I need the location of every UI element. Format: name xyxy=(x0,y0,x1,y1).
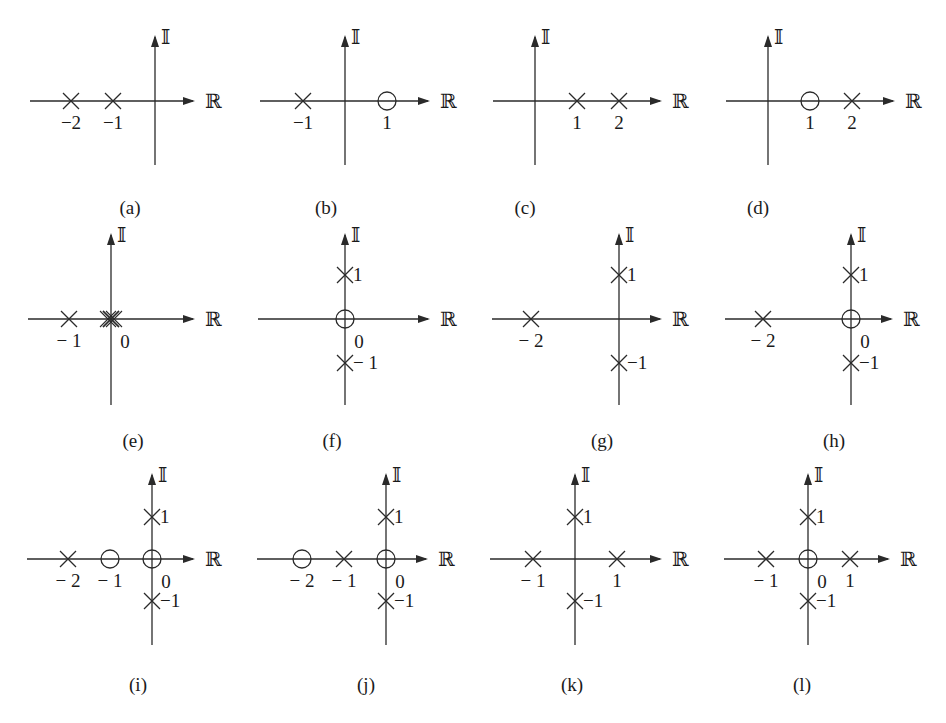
imag-axis-label: 𝕀 xyxy=(161,27,170,47)
real-axis-label: ℝ xyxy=(905,91,922,111)
real-axis-arrow-icon xyxy=(416,555,428,563)
tick-label: 1 xyxy=(572,113,582,132)
real-axis-label: ℝ xyxy=(672,309,689,329)
tick-label: − 2 xyxy=(290,571,315,590)
panel-caption: (d) xyxy=(747,198,769,217)
real-axis-arrow-icon xyxy=(650,97,662,105)
imag-axis-label: 𝕀 xyxy=(117,225,126,245)
panel-caption: (f) xyxy=(323,431,342,450)
tick-label: −1 xyxy=(103,113,123,132)
tick-label: 2 xyxy=(614,113,624,132)
pole-zero-figure: ℝ𝕀−2−1(a)ℝ𝕀−11(b)ℝ𝕀12(c)ℝ𝕀12(d)ℝ𝕀− 10(e)… xyxy=(0,0,946,723)
tick-label: 0 xyxy=(161,572,171,591)
imag-axis-arrow-icon xyxy=(151,35,159,47)
tick-label: − 2 xyxy=(751,331,776,350)
tick-label: 1 xyxy=(160,507,170,526)
real-axis-arrow-icon xyxy=(881,315,893,323)
real-axis-arrow-icon xyxy=(183,555,195,563)
imag-axis-arrow-icon xyxy=(571,473,579,485)
imag-axis-label: 𝕀 xyxy=(351,225,360,245)
tick-label: 1 xyxy=(816,507,826,526)
tick-label: −1 xyxy=(816,591,836,610)
tick-label: 1 xyxy=(382,113,392,132)
imag-axis-label: 𝕀 xyxy=(392,465,401,485)
panel-caption: (h) xyxy=(823,431,845,450)
tick-label: 1 xyxy=(859,265,869,284)
tick-label: 1 xyxy=(583,507,593,526)
imag-axis-label: 𝕀 xyxy=(774,27,783,47)
real-axis-arrow-icon xyxy=(883,97,895,105)
imag-axis-label: 𝕀 xyxy=(541,27,550,47)
tick-label: 1 xyxy=(612,571,622,590)
tick-label: −1 xyxy=(859,353,879,372)
imag-axis-label: 𝕀 xyxy=(351,27,360,47)
real-axis-label: ℝ xyxy=(438,549,455,569)
tick-label: − 1 xyxy=(353,353,378,372)
tick-label: −1 xyxy=(394,591,414,610)
tick-label: − 1 xyxy=(332,571,357,590)
imag-axis-arrow-icon xyxy=(804,473,812,485)
imag-axis-label: 𝕀 xyxy=(625,225,634,245)
real-axis-label: ℝ xyxy=(440,91,457,111)
panel-caption: (k) xyxy=(561,675,583,694)
tick-label: 0 xyxy=(860,332,870,351)
tick-label: − 1 xyxy=(57,331,82,350)
tick-label: − 2 xyxy=(519,331,544,350)
imag-axis-arrow-icon xyxy=(382,473,390,485)
real-axis-arrow-icon xyxy=(418,97,430,105)
imag-axis-label: 𝕀 xyxy=(857,225,866,245)
imag-axis-arrow-icon xyxy=(148,473,156,485)
tick-label: 2 xyxy=(847,113,857,132)
panel-caption: (c) xyxy=(514,198,535,217)
real-axis-arrow-icon xyxy=(418,315,430,323)
diagram-svg xyxy=(0,0,946,723)
imag-axis-arrow-icon xyxy=(341,35,349,47)
real-axis-label: ℝ xyxy=(900,549,917,569)
panel-caption: (l) xyxy=(793,675,811,694)
tick-label: 0 xyxy=(120,332,130,351)
real-axis-label: ℝ xyxy=(440,309,457,329)
panel-caption: (i) xyxy=(129,675,147,694)
tick-label: 1 xyxy=(845,571,855,590)
real-axis-label: ℝ xyxy=(672,91,689,111)
tick-label: −1 xyxy=(160,591,180,610)
imag-axis-arrow-icon xyxy=(531,35,539,47)
real-axis-arrow-icon xyxy=(183,315,195,323)
real-axis-label: ℝ xyxy=(205,549,222,569)
real-axis-label: ℝ xyxy=(205,91,222,111)
tick-label: −1 xyxy=(583,591,603,610)
real-axis-arrow-icon xyxy=(878,555,890,563)
real-axis-arrow-icon xyxy=(183,97,195,105)
panel-caption: (a) xyxy=(119,198,140,217)
tick-label: − 1 xyxy=(98,571,123,590)
tick-label: − 1 xyxy=(521,571,546,590)
tick-label: − 2 xyxy=(56,571,81,590)
panel-caption: (j) xyxy=(357,675,375,694)
tick-label: −1 xyxy=(293,113,313,132)
tick-label: 1 xyxy=(353,265,363,284)
imag-axis-arrow-icon xyxy=(107,233,115,245)
tick-label: 1 xyxy=(627,265,637,284)
real-axis-arrow-icon xyxy=(650,315,662,323)
real-axis-arrow-icon xyxy=(650,555,662,563)
tick-label: 1 xyxy=(394,507,404,526)
imag-axis-arrow-icon xyxy=(341,233,349,245)
tick-label: − 1 xyxy=(754,571,779,590)
imag-axis-label: 𝕀 xyxy=(158,465,167,485)
panel-caption: (b) xyxy=(315,198,337,217)
tick-label: 0 xyxy=(817,572,827,591)
real-axis-label: ℝ xyxy=(903,309,920,329)
imag-axis-arrow-icon xyxy=(764,35,772,47)
tick-label: 0 xyxy=(354,332,364,351)
tick-label: −2 xyxy=(61,113,81,132)
real-axis-label: ℝ xyxy=(672,549,689,569)
real-axis-label: ℝ xyxy=(205,309,222,329)
imag-axis-arrow-icon xyxy=(847,233,855,245)
tick-label: 0 xyxy=(395,572,405,591)
imag-axis-label: 𝕀 xyxy=(814,465,823,485)
imag-axis-label: 𝕀 xyxy=(581,465,590,485)
panel-caption: (g) xyxy=(591,431,613,450)
tick-label: 1 xyxy=(805,113,815,132)
tick-label: −1 xyxy=(627,353,647,372)
imag-axis-arrow-icon xyxy=(615,233,623,245)
